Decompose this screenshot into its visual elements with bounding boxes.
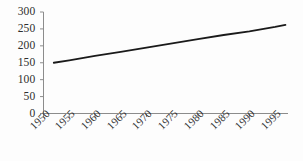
data-series-line <box>54 25 286 63</box>
y-tick-label: 300 <box>6 6 36 18</box>
chart-plot-area <box>0 0 303 161</box>
y-tick-label: 200 <box>6 40 36 52</box>
y-tick-label: 0 <box>6 108 36 120</box>
y-tick-label: 50 <box>6 91 36 103</box>
line-chart: 300250200150100500 195019551960196519701… <box>0 0 303 161</box>
y-tick-label: 150 <box>6 57 36 69</box>
y-tick-label: 100 <box>6 74 36 86</box>
y-tick-label: 250 <box>6 23 36 35</box>
y-axis-ticks <box>40 12 44 114</box>
